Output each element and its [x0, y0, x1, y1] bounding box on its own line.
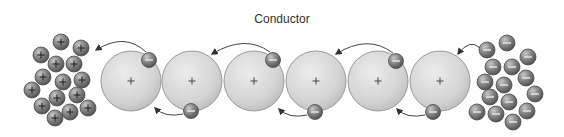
positive-charge: [24, 82, 40, 98]
positive-charge: [74, 72, 90, 88]
atom-6: [410, 51, 470, 111]
negative-charge-cluster: [469, 35, 543, 130]
negative-charge: [479, 42, 495, 58]
positive-charge: [48, 56, 64, 72]
electron-flow-arrow-icon: [397, 109, 425, 116]
negative-charge: [504, 59, 520, 75]
electron-top: [142, 53, 157, 68]
positive-charge-cluster: [24, 34, 96, 126]
positive-charge: [55, 74, 71, 90]
electron-bottom: [184, 104, 199, 119]
electron-top: [266, 53, 281, 68]
electron-flow-arrow-icon: [458, 44, 480, 54]
negative-charge: [527, 86, 543, 102]
positive-charge: [80, 100, 96, 116]
electron-flow-arrow-icon: [96, 41, 146, 52]
negative-charge: [505, 114, 521, 130]
positive-charge: [35, 69, 51, 85]
negative-charge: [501, 94, 517, 110]
positive-charge: [73, 40, 89, 56]
negative-charge: [485, 59, 501, 75]
negative-charge: [520, 49, 536, 65]
conductor-diagram: Conductor: [0, 0, 564, 137]
positive-charge: [33, 47, 49, 63]
negative-charge: [519, 103, 535, 119]
positive-charge: [49, 90, 65, 106]
negative-charge: [499, 35, 515, 51]
positive-charge: [69, 87, 85, 103]
positive-charge: [53, 34, 69, 50]
negative-charge: [518, 70, 534, 86]
atom-4: [286, 51, 346, 111]
electron-top: [389, 54, 404, 69]
electron-flow-arrow-icon: [155, 108, 183, 115]
negative-charge: [488, 106, 504, 122]
negative-charge: [477, 74, 493, 90]
electron-flow-arrow-icon: [279, 109, 307, 116]
negative-charge: [482, 89, 498, 105]
electron-bottom: [308, 105, 323, 120]
electron-bottom: [426, 105, 441, 120]
positive-charge: [34, 98, 50, 114]
atom-2: [162, 51, 222, 111]
positive-charge: [66, 56, 82, 72]
diagram-canvas: [0, 0, 564, 137]
negative-charge: [496, 77, 512, 93]
positive-charge: [47, 110, 63, 126]
positive-charge: [62, 104, 78, 120]
negative-charge: [469, 104, 485, 120]
